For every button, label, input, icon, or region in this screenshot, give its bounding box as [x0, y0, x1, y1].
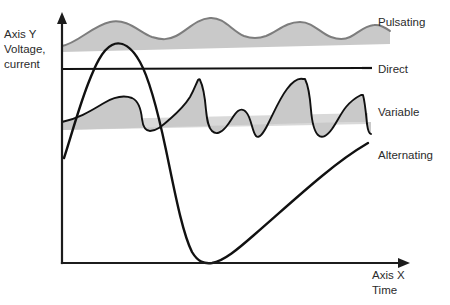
legend-label-alternating: Alternating — [378, 148, 433, 163]
series-pulsating — [62, 18, 390, 52]
x-axis-label-line2: Time — [372, 283, 405, 298]
x-axis-label: Axis X Time — [372, 268, 405, 298]
y-axis-arrow — [57, 12, 67, 24]
y-axis-label: Axis Y Voltage, current — [4, 27, 46, 72]
legend-label-direct: Direct — [378, 62, 408, 77]
x-axis-label-line1: Axis X — [372, 268, 405, 283]
variable-fill — [62, 79, 371, 137]
y-axis-label-line2: Voltage, — [4, 42, 46, 57]
series-direct — [62, 68, 362, 69]
legend-label-pulsating: Pulsating — [378, 15, 425, 30]
y-axis-label-line3: current — [4, 57, 46, 72]
y-axis-label-line1: Axis Y — [4, 27, 46, 42]
chart-container: Axis Y Voltage, current Axis X Time Puls… — [0, 0, 450, 305]
series-variable — [62, 79, 371, 137]
x-axis-arrow — [398, 258, 410, 268]
legend-label-variable: Variable — [378, 105, 419, 120]
direct-line — [62, 68, 362, 69]
series-alternating — [64, 44, 368, 264]
alternating-curve — [64, 44, 368, 264]
